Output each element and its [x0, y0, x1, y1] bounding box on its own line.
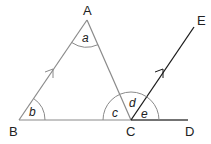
label-point-b: B [9, 124, 18, 139]
label-point-c: C [126, 124, 135, 139]
label-angle-d: d [129, 96, 136, 110]
label-angle-c: c [112, 106, 118, 120]
label-point-a: A [83, 3, 92, 18]
label-angle-e: e [141, 107, 148, 121]
label-point-e: E [197, 13, 206, 28]
label-angle-b: b [29, 105, 36, 119]
geometry-diagram: A B C D E a b c d e [0, 0, 211, 144]
label-point-d: D [185, 124, 194, 139]
side-ac [87, 20, 131, 120]
label-angle-a: a [82, 31, 89, 45]
